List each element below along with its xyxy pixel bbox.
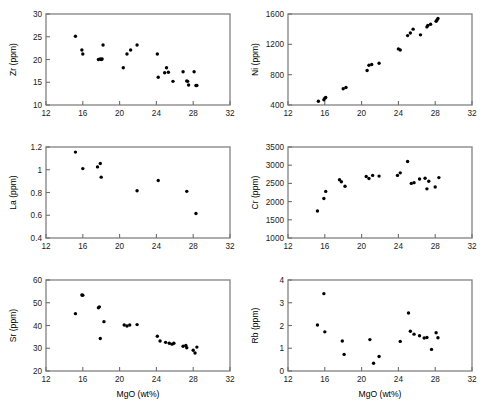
data-point bbox=[324, 96, 327, 99]
data-point bbox=[100, 175, 103, 178]
data-point bbox=[81, 167, 84, 170]
data-point bbox=[156, 334, 159, 337]
x-axis-sr: 121620242832 bbox=[41, 367, 235, 384]
y-axis-title-rb: Rb (ppm) bbox=[250, 307, 260, 343]
data-point bbox=[322, 197, 325, 200]
data-series-sr bbox=[74, 293, 199, 354]
x-tick-label: 32 bbox=[225, 109, 235, 118]
data-point bbox=[98, 305, 101, 308]
figure-panel-grid: 1015202530121620242832Zr (ppm) 400800120… bbox=[0, 0, 484, 405]
data-point bbox=[186, 80, 189, 83]
x-tick-label: 12 bbox=[283, 375, 293, 384]
data-point bbox=[418, 334, 421, 337]
data-point bbox=[372, 362, 375, 365]
data-point bbox=[418, 177, 421, 180]
data-point bbox=[406, 34, 409, 37]
y-tick-label: 1 bbox=[37, 166, 42, 175]
x-tick-label: 24 bbox=[152, 109, 162, 118]
data-point bbox=[96, 165, 99, 168]
x-tick-label: 12 bbox=[41, 109, 51, 118]
x-tick-label: 28 bbox=[431, 242, 441, 251]
plot-frame-zr bbox=[46, 14, 230, 105]
data-point bbox=[99, 337, 102, 340]
x-tick-label: 20 bbox=[115, 242, 125, 251]
x-axis-title-rb: MgO (wt%) bbox=[359, 389, 402, 399]
data-point bbox=[187, 83, 190, 86]
y-tick-label: 3000 bbox=[266, 161, 285, 170]
y-tick-label: 1600 bbox=[266, 10, 285, 19]
x-axis-zr: 121620242832 bbox=[41, 101, 235, 118]
data-point bbox=[377, 62, 380, 65]
y-tick-label: 800 bbox=[270, 71, 284, 80]
y-axis-title-la: La (ppm) bbox=[8, 175, 18, 210]
data-point bbox=[128, 323, 131, 326]
data-point bbox=[412, 181, 415, 184]
data-point bbox=[436, 17, 439, 20]
data-point bbox=[425, 187, 428, 190]
data-point bbox=[164, 341, 167, 344]
y-tick-label: 30 bbox=[33, 10, 43, 19]
data-point bbox=[185, 346, 188, 349]
x-tick-label: 24 bbox=[394, 109, 404, 118]
x-tick-label: 20 bbox=[357, 109, 367, 118]
x-tick-label: 20 bbox=[115, 375, 125, 384]
data-point bbox=[102, 320, 105, 323]
data-point bbox=[430, 348, 433, 351]
x-tick-label: 20 bbox=[115, 109, 125, 118]
y-tick-label: 0.6 bbox=[31, 211, 43, 220]
y-axis-zr: 1015202530 bbox=[33, 10, 50, 110]
data-series-ni bbox=[317, 17, 440, 103]
y-axis-title-ni: Ni (ppm) bbox=[250, 43, 260, 76]
data-point bbox=[399, 48, 402, 51]
y-tick-label: 1000 bbox=[266, 234, 285, 243]
data-point bbox=[135, 43, 138, 46]
x-axis-cr: 121620242832 bbox=[283, 234, 477, 251]
x-tick-label: 12 bbox=[41, 242, 51, 251]
data-point bbox=[185, 190, 188, 193]
panel-ni: 40080012001600121620242832Ni (ppm) bbox=[242, 0, 484, 133]
scatter-plot-cr: 100015002000250030003500121620242832Cr (… bbox=[242, 133, 484, 266]
data-point bbox=[99, 162, 102, 165]
x-tick-label: 32 bbox=[225, 242, 235, 251]
data-point bbox=[365, 69, 368, 72]
y-tick-label: 2500 bbox=[266, 179, 285, 188]
x-tick-label: 16 bbox=[78, 109, 88, 118]
x-tick-label: 16 bbox=[78, 242, 88, 251]
x-tick-label: 28 bbox=[189, 109, 199, 118]
data-point bbox=[371, 174, 374, 177]
x-tick-label: 24 bbox=[152, 242, 162, 251]
scatter-plot-sr: 2030405060121620242832Sr (ppm)MgO (wt%) bbox=[0, 266, 242, 399]
data-point bbox=[81, 52, 84, 55]
plot-frame-cr bbox=[288, 147, 472, 238]
y-axis-title-zr: Zr (ppm) bbox=[8, 43, 18, 76]
y-tick-label: 1200 bbox=[266, 40, 285, 49]
data-point bbox=[343, 185, 346, 188]
data-point bbox=[409, 31, 412, 34]
data-point bbox=[377, 174, 380, 177]
data-point bbox=[370, 63, 373, 66]
y-tick-label: 1 bbox=[279, 344, 284, 353]
y-tick-label: 0.8 bbox=[31, 189, 43, 198]
x-tick-label: 20 bbox=[357, 375, 367, 384]
data-point bbox=[324, 190, 327, 193]
panel-sr: 2030405060121620242832Sr (ppm)MgO (wt%) bbox=[0, 266, 242, 399]
y-tick-label: 3 bbox=[279, 299, 284, 308]
panel-la: 0.40.60.811.2121620242832La (ppm) bbox=[0, 133, 242, 266]
data-point bbox=[195, 345, 198, 348]
x-tick-label: 28 bbox=[431, 375, 441, 384]
data-point bbox=[101, 43, 104, 46]
data-point bbox=[412, 332, 415, 335]
data-series-zr bbox=[74, 35, 199, 88]
y-tick-label: 25 bbox=[33, 33, 43, 42]
data-point bbox=[167, 71, 170, 74]
data-point bbox=[316, 323, 319, 326]
data-series-rb bbox=[316, 292, 440, 365]
x-tick-label: 32 bbox=[467, 242, 477, 251]
data-point bbox=[129, 48, 132, 51]
data-point bbox=[377, 355, 380, 358]
data-point bbox=[322, 292, 325, 295]
data-point bbox=[342, 353, 345, 356]
data-point bbox=[172, 342, 175, 345]
data-point bbox=[406, 160, 409, 163]
scatter-plot-zr: 1015202530121620242832Zr (ppm) bbox=[0, 0, 242, 133]
